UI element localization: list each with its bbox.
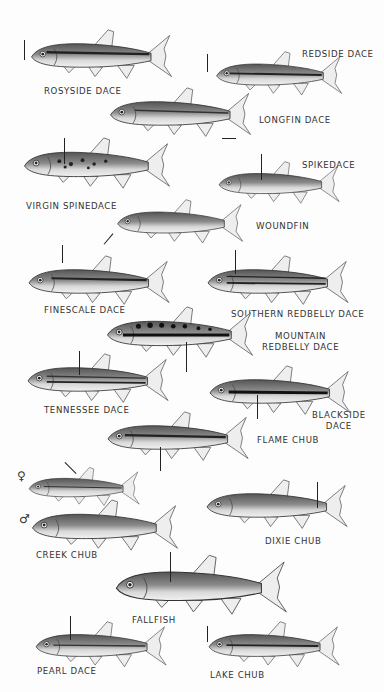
arrow-icon — [62, 245, 63, 263]
mountain-redbelly-dace-label-line1: MOUNTAIN — [262, 331, 339, 342]
arrow-icon — [24, 40, 25, 60]
arrow-icon — [317, 482, 318, 508]
arrow-icon — [186, 342, 187, 372]
creek-chub-label: CREEK CHUB — [36, 550, 98, 561]
finescale-dace-illustration — [20, 254, 180, 310]
virgin-spinedace-label: VIRGIN SPINEDACE — [26, 201, 117, 212]
woundfin-label: WOUNDFIN — [256, 221, 309, 232]
arrow-icon — [70, 616, 71, 640]
arrow-icon — [222, 138, 236, 139]
tennessee-dace-illustration — [20, 352, 178, 408]
flame-chub-label: FLAME CHUB — [257, 435, 319, 446]
arrow-icon — [207, 626, 208, 642]
blackside-dace-label: BLACKSIDE DACE — [312, 410, 366, 432]
mountain-redbelly-dace-label-line2: REDBELLY DACE — [262, 342, 339, 353]
arrow-icon — [235, 250, 236, 274]
fish-identification-plate: ROSYSIDE DACE REDSIDE DACE LONGFIN DACE … — [0, 0, 384, 692]
blackside-dace-label-line1: BLACKSIDE — [312, 410, 366, 421]
longfin-dace-label: LONGFIN DACE — [259, 115, 331, 126]
spikedace-label: SPIKEDACE — [302, 160, 355, 171]
arrow-icon — [64, 138, 65, 164]
rosyside-dace-illustration — [20, 28, 185, 84]
mountain-redbelly-dace-label: MOUNTAIN REDBELLY DACE — [262, 331, 339, 353]
pearl-dace-illustration — [26, 620, 178, 672]
arrow-icon — [160, 447, 161, 471]
creek-chub-male-illustration — [18, 498, 194, 556]
lake-chub-label: LAKE CHUB — [210, 670, 265, 681]
woundfin-illustration — [106, 198, 256, 248]
arrow-icon — [79, 351, 80, 375]
virgin-spinedace-illustration — [18, 136, 178, 194]
dixie-chub-illustration — [198, 478, 358, 534]
fallfish-illustration — [100, 553, 305, 621]
pearl-dace-label: PEARL DACE — [37, 666, 97, 677]
arrow-icon — [170, 552, 171, 582]
southern-redbelly-dace-illustration — [198, 254, 360, 310]
arrow-icon — [261, 154, 262, 180]
longfin-dace-illustration — [104, 86, 259, 142]
flame-chub-illustration — [100, 410, 258, 466]
redside-dace-label: REDSIDE DACE — [302, 49, 374, 60]
blackside-dace-label-line2: DACE — [312, 421, 366, 432]
dixie-chub-label: DIXIE CHUB — [265, 536, 321, 547]
lake-chub-illustration — [194, 620, 356, 672]
arrow-icon — [207, 54, 208, 72]
